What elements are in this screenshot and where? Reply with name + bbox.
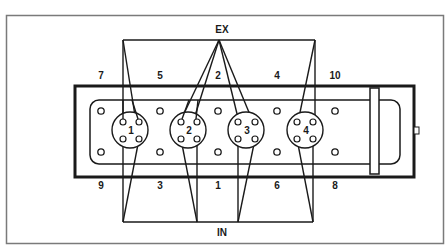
- bottom-sequence-labels: 9 3 1 6 8: [98, 180, 338, 191]
- cylinder-3: 3: [228, 112, 264, 148]
- cylinder-1: 1: [112, 112, 148, 148]
- svg-text:9: 9: [98, 180, 104, 191]
- block-connector: [414, 127, 419, 134]
- bolt-hole-7: [98, 108, 104, 114]
- bolt-hole-2: [215, 108, 221, 114]
- svg-text:1: 1: [128, 125, 134, 136]
- svg-text:1: 1: [215, 180, 221, 191]
- bolt-hole-5: [157, 108, 163, 114]
- svg-text:2: 2: [186, 125, 192, 136]
- bolt-hole-8: [332, 149, 338, 155]
- top-sequence-labels: 7 5 2 4 10: [98, 70, 341, 81]
- bolt-hole-10: [332, 108, 338, 114]
- svg-text:10: 10: [329, 70, 341, 81]
- svg-text:4: 4: [274, 70, 280, 81]
- bolt-hole-4: [274, 108, 280, 114]
- svg-text:3: 3: [157, 180, 163, 191]
- svg-text:2: 2: [215, 70, 221, 81]
- bolt-hole-6: [274, 149, 280, 155]
- svg-text:7: 7: [98, 70, 104, 81]
- svg-text:3: 3: [244, 125, 250, 136]
- svg-text:5: 5: [157, 70, 163, 81]
- bolt-hole-3: [157, 149, 163, 155]
- svg-text:4: 4: [303, 125, 309, 136]
- timing-cover-bar: [370, 88, 379, 174]
- cylinder-head-diagram: EX IN: [0, 0, 445, 248]
- exhaust-label: EX: [215, 24, 229, 35]
- bolt-hole-9: [98, 149, 104, 155]
- cylinder-4: 4: [287, 112, 323, 148]
- intake-label: IN: [217, 227, 227, 238]
- cylinders: 1 2 3 4: [112, 112, 323, 148]
- svg-text:8: 8: [332, 180, 338, 191]
- svg-text:6: 6: [274, 180, 280, 191]
- bolt-hole-1: [215, 149, 221, 155]
- cylinder-2: 2: [170, 112, 206, 148]
